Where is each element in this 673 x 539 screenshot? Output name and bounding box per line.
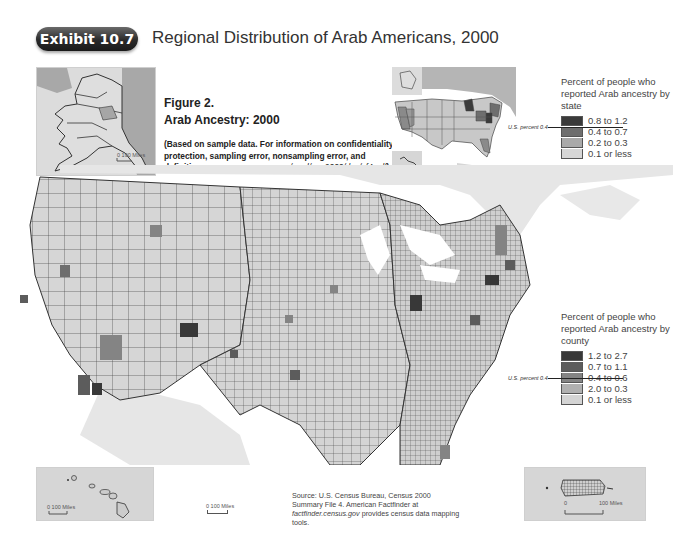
county-legend-swatch [561,362,583,372]
state-legend-rows: 0.8 to 1.2 0.4 to 0.7 0.2 to 0.3 0.1 or … [561,115,673,159]
figure-title: Arab Ancestry: 2000 [164,112,399,129]
state-legend-swatch [561,138,583,148]
state-legend-swatch [561,116,583,126]
figure-caption: Figure 2. Arab Ancestry: 2000 (Based on … [164,95,399,174]
state-legend-heading: Percent of people who reported Arab ance… [561,76,673,112]
county-us-percent-line [548,378,623,379]
state-legend-row: 0.1 or less [561,148,673,159]
county-legend-row: 2.0 to 0.3 [561,383,673,394]
source-text: Source: U.S. Census Bureau, Census 2000 … [292,491,431,509]
source-note: Source: U.S. Census Bureau, Census 2000 … [292,491,462,527]
state-legend-label: 0.8 to 1.2 [588,115,628,126]
state-legend-swatch [561,127,583,137]
county-legend-swatch [561,395,583,405]
alaska-inset-map: 0 100 Miles [36,67,156,176]
county-legend: Percent of people who reported Arab ance… [561,311,673,405]
hawaii-inset-map: 0 100 Miles [36,467,154,521]
county-legend-label: 2.0 to 0.3 [588,383,628,394]
county-us-percent-label: U.S. percent 0.4 [508,375,548,381]
figure-number: Figure 2. [164,95,399,112]
puerto-rico-inset-map: 0 100 Miles [524,467,646,521]
county-legend-row: 0.7 to 1.1 [561,361,673,372]
county-legend-label: 1.2 to 2.7 [588,350,628,361]
county-legend-row: 1.2 to 2.7 [561,350,673,361]
county-legend-label: 0.1 or less [588,394,632,405]
county-legend-swatch [561,384,583,394]
puerto-rico-map-graphic [525,468,645,520]
pr-scale-start: 0 [564,500,567,506]
state-legend-row: 0.2 to 0.3 [561,137,673,148]
exhibit-title: Regional Distribution of Arab Americans,… [152,28,499,48]
alaska-map-graphic [37,68,155,175]
state-legend: Percent of people who reported Arab ance… [561,76,673,159]
state-level-mini-map [392,67,516,175]
county-legend-label: 0.7 to 1.1 [588,361,628,372]
county-legend-heading: Percent of people who reported Arab ance… [561,311,673,347]
state-legend-label: 0.2 to 0.3 [588,137,628,148]
main-map-scale-bar [207,510,228,514]
source-url: factfinder.census.gov [292,509,360,518]
hawaii-map-graphic [37,468,153,520]
hawaii-scale-label: 0 100 Miles [47,504,75,510]
state-map-graphic [392,67,516,175]
main-map-scale-label: 0 100 Miles [206,503,234,509]
alaska-scale-label: 0 100 Miles [117,152,145,158]
pr-scale-end: 100 Miles [599,500,623,506]
state-legend-row: 0.8 to 1.2 [561,115,673,126]
state-us-percent-label: U.S. percent 0.4 [508,124,548,130]
state-legend-swatch [561,149,583,159]
state-us-percent-line [548,127,623,128]
exhibit-badge: Exhibit 10.7 [36,27,138,51]
county-legend-row: 0.1 or less [561,394,673,405]
county-legend-swatch [561,351,583,361]
state-legend-label: 0.1 or less [588,148,632,159]
